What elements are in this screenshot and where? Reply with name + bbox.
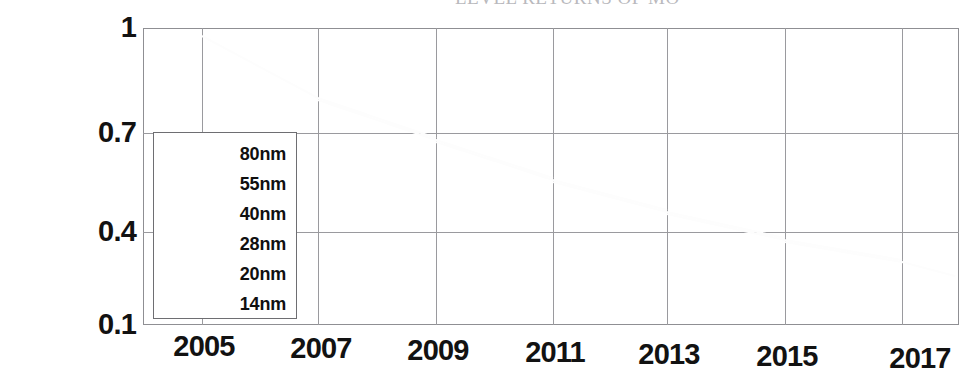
- y-axis-title: Normalized Transistor Cost: [0, 38, 10, 318]
- y-tick-label-0-1: 0.1: [38, 308, 136, 341]
- legend-label-40nm: 40nm: [240, 204, 286, 225]
- legend-swatch-80nm: [193, 153, 231, 156]
- cutoff-header-text: LEVEL RETURNS OF MO: [455, 0, 680, 9]
- y-tick-label-0-4: 0.4: [38, 215, 136, 248]
- legend-swatch-28nm: [193, 243, 231, 246]
- x-tick-label-2011: 2011: [500, 336, 610, 369]
- gridline-vertical-2017: [902, 28, 903, 325]
- gridline-vertical-2007: [318, 28, 319, 325]
- legend-swatch-14nm: [193, 303, 231, 306]
- legend-item-28nm[interactable]: 28nm: [154, 229, 296, 259]
- legend-swatch-20nm: [193, 273, 231, 276]
- x-tick-label-2017: 2017: [865, 342, 974, 375]
- legend-item-20nm[interactable]: 20nm: [154, 259, 296, 289]
- chart-legend[interactable]: 80nm 55nm 40nm 28nm 20nm 14nm: [153, 132, 297, 319]
- y-tick-label-0-7: 0.7: [38, 116, 136, 149]
- legend-item-14nm[interactable]: 14nm: [154, 289, 296, 319]
- x-tick-label-2007: 2007: [266, 332, 376, 365]
- legend-label-20nm: 20nm: [240, 264, 286, 285]
- legend-label-80nm: 80nm: [240, 144, 286, 165]
- legend-item-80nm[interactable]: 80nm: [154, 139, 296, 169]
- legend-label-55nm: 55nm: [240, 174, 286, 195]
- legend-label-14nm: 14nm: [240, 294, 286, 315]
- x-tick-label-2005: 2005: [149, 330, 259, 363]
- x-tick-label-2009: 2009: [383, 334, 493, 367]
- legend-item-40nm[interactable]: 40nm: [154, 199, 296, 229]
- legend-item-55nm[interactable]: 55nm: [154, 169, 296, 199]
- x-tick-label-2013: 2013: [614, 338, 724, 371]
- y-axis-title-line-2: Transistor Cost: [0, 38, 1, 318]
- y-tick-label-1: 1: [38, 11, 136, 44]
- gridline-vertical-2015: [785, 28, 786, 325]
- x-tick-label-2015: 2015: [732, 340, 842, 373]
- gridline-vertical-2009: [436, 28, 437, 325]
- gridline-vertical-2013: [667, 28, 668, 325]
- legend-swatch-55nm: [193, 183, 231, 186]
- legend-swatch-40nm: [193, 213, 231, 216]
- gridline-vertical-2011: [553, 28, 554, 325]
- cutoff-page-header: LEVEL RETURNS OF MO: [0, 0, 974, 11]
- legend-label-28nm: 28nm: [240, 234, 286, 255]
